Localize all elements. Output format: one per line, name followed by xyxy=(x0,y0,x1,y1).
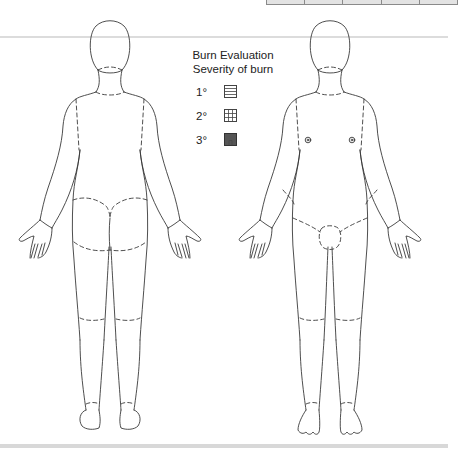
burn-legend: Burn Evaluation Severity of burn 1° 2° 3… xyxy=(178,48,288,148)
legend-item-second-degree: 2° xyxy=(196,107,288,124)
legend-degree-label: 3° xyxy=(196,134,224,146)
legend-item-third-degree: 3° xyxy=(196,131,288,148)
grid-pattern-icon xyxy=(224,109,237,122)
posterior-body-figure xyxy=(19,21,201,430)
legend-degree-label: 2° xyxy=(196,110,224,122)
horizontal-lines-pattern-icon xyxy=(224,85,237,98)
solid-dark-pattern-icon xyxy=(224,133,237,146)
legend-degree-label: 1° xyxy=(196,86,224,98)
legend-item-first-degree: 1° xyxy=(196,83,288,100)
legend-title: Burn Evaluation xyxy=(178,48,288,62)
legend-subtitle: Severity of burn xyxy=(178,62,288,76)
